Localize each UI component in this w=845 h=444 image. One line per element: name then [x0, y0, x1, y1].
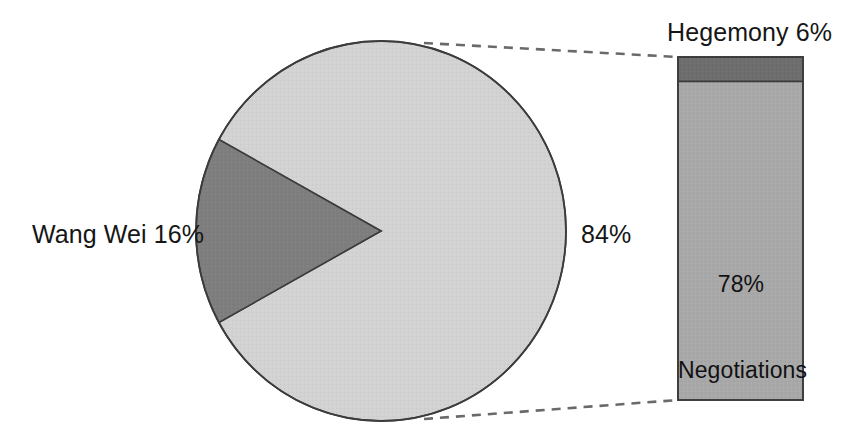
pie-label-other-percent: 84%	[581, 220, 631, 249]
pie-group	[196, 41, 566, 421]
bar-segment-hegemony[interactable]	[678, 57, 803, 82]
pie-label-wang-wei: Wang Wei 16%	[32, 220, 204, 249]
connector-line-top	[424, 43, 678, 57]
bar-label-negotiations-percent: 78%	[678, 270, 804, 299]
bar-label-hegemony: Hegemony 6%	[667, 18, 832, 47]
pie-of-bar-chart: Wang Wei 16% 84% Hegemony 6% 78% Negotia…	[0, 0, 845, 444]
bar-label-negotiations-name: Negotiations	[678, 356, 804, 385]
bar-label-negotiations: 78% Negotiations	[678, 212, 804, 442]
connector-line-bottom	[424, 400, 678, 419]
